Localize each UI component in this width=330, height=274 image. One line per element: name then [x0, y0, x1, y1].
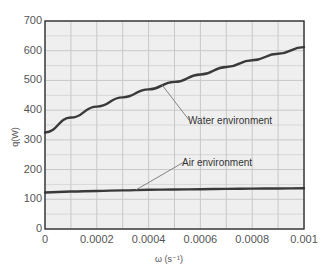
y-axis-label: q(W)	[10, 127, 20, 147]
y-tick-label: 0	[12, 223, 42, 234]
x-tick-label: 0	[20, 234, 70, 245]
x-tick-label: 0.001	[279, 234, 329, 245]
x-tick-label: 0.0002	[72, 234, 122, 245]
y-tick-label: 700	[12, 15, 42, 26]
annotation-water-environment: Water environment	[188, 115, 272, 126]
y-tick-label: 600	[12, 45, 42, 56]
chart-container: 010020030040050060070000.00020.00040.000…	[0, 0, 330, 274]
x-tick-label: 0.0006	[175, 234, 225, 245]
annotation-air-environment: Air environment	[182, 157, 252, 168]
y-tick-label: 200	[12, 164, 42, 175]
y-tick-label: 100	[12, 193, 42, 204]
y-tick-label: 500	[12, 74, 42, 85]
plot-area	[0, 0, 330, 274]
x-tick-label: 0.0008	[227, 234, 277, 245]
y-tick-label: 400	[12, 104, 42, 115]
x-axis-label: ω (s⁻¹)	[155, 254, 183, 264]
x-tick-label: 0.0004	[124, 234, 174, 245]
